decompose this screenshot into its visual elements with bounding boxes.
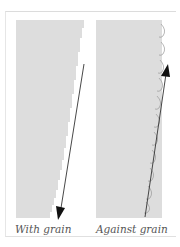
against-grain-panel [97,20,161,218]
against-grain-label: Against grain [96,223,168,235]
arrow-up-head-icon [161,64,170,77]
grain-diagram [0,0,180,247]
with-grain-arrow [56,64,84,220]
with-grain-panel [17,20,83,218]
arrow-down-head-icon [56,206,65,220]
with-grain-label: With grain [15,223,71,235]
